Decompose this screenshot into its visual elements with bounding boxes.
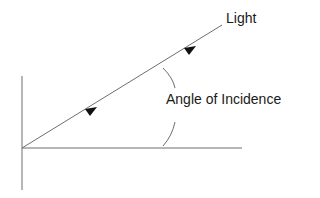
light-ray: [22, 25, 222, 148]
light-label: Light: [226, 10, 256, 26]
angle-arc-upper: [163, 68, 175, 88]
angle-of-incidence-label: Angle of Incidence: [166, 91, 281, 107]
angle-arc-lower: [163, 122, 175, 146]
